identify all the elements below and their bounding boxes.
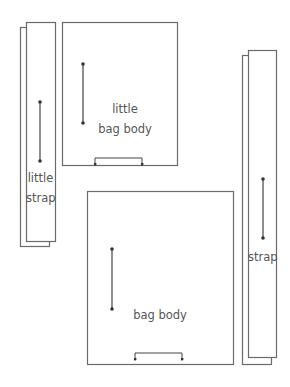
bag-body-label: bag body <box>124 305 196 325</box>
little-strap-piece <box>21 23 56 247</box>
strap-label-text: strap <box>248 247 277 267</box>
little-strap-front-layer <box>27 23 56 242</box>
strap-label: strap <box>248 247 277 267</box>
little-strap-label-line2: strap <box>26 188 55 208</box>
bag-body-outline <box>88 192 234 365</box>
little-bag-body-outline <box>63 23 178 166</box>
little-strap-label: little strap <box>26 168 55 208</box>
bag-body-piece <box>88 192 234 365</box>
little-strap-label-line1: little <box>26 168 55 188</box>
strap-piece <box>243 51 277 365</box>
little-bag-body-piece <box>63 23 178 166</box>
little-bag-body-label-line1: little <box>89 99 161 119</box>
bag-body-label-text: bag body <box>124 305 196 325</box>
little-bag-body-label: little bag body <box>89 99 161 139</box>
little-bag-body-label-line2: bag body <box>89 119 161 139</box>
